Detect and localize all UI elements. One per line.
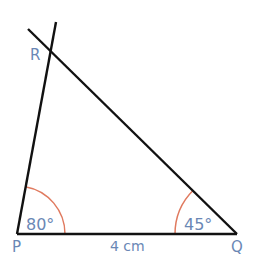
vertex-label-r: R bbox=[30, 46, 40, 64]
triangle-diagram: R P Q 80° 45° 4 cm bbox=[0, 0, 258, 260]
vertex-label-q: Q bbox=[231, 238, 243, 256]
angle-label-p: 80° bbox=[26, 215, 54, 234]
angle-label-q: 45° bbox=[184, 215, 212, 234]
side-label-pq: 4 cm bbox=[110, 238, 145, 254]
vertex-label-p: P bbox=[12, 238, 21, 256]
side-qr-construction-line bbox=[28, 29, 237, 234]
